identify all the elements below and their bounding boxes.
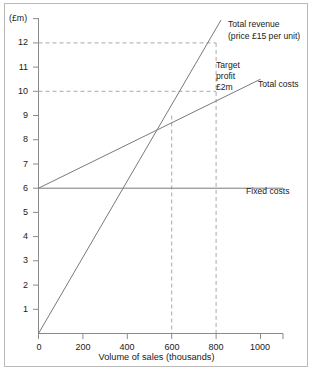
- x-axis-ticks: [39, 334, 284, 340]
- ytick-label-10: 10: [4, 87, 28, 96]
- annotation-total-revenue: Total revenue (price £15 per unit): [228, 19, 300, 42]
- ytick-label-6: 6: [8, 184, 28, 193]
- x-axis-title: Volume of sales (thousands): [0, 352, 313, 362]
- break-even-chart-figure: 1 2 3 4 5 6 7 8 9 10 11 12 0 200 400 600…: [0, 0, 313, 373]
- xtick-label-400: 400: [112, 343, 142, 352]
- total-costs-line: [39, 79, 261, 188]
- ytick-label-8: 8: [8, 135, 28, 144]
- ytick-label-11: 11: [4, 63, 28, 72]
- ytick-label-7: 7: [8, 160, 28, 169]
- annotation-total-revenue-line1: Total revenue: [228, 19, 300, 31]
- ytick-label-9: 9: [8, 111, 28, 120]
- ytick-label-12: 12: [4, 38, 28, 47]
- xtick-label-200: 200: [68, 343, 98, 352]
- annotation-fixed-costs: Fixed costs: [246, 186, 289, 196]
- annotation-target-profit: Target profit £2m: [216, 60, 240, 94]
- annotation-target-profit-line3: £2m: [216, 82, 240, 93]
- annotation-target-profit-line1: Target: [216, 60, 240, 71]
- ytick-label-3: 3: [8, 256, 28, 265]
- total-revenue-line: [39, 20, 222, 334]
- y-axis-unit-label: (£m): [9, 13, 27, 23]
- xtick-label-0: 0: [24, 343, 54, 352]
- ytick-label-5: 5: [8, 208, 28, 217]
- ytick-label-4: 4: [8, 232, 28, 241]
- annotation-target-profit-line2: profit: [216, 71, 240, 82]
- annotation-total-revenue-line2: (price £15 per unit): [228, 31, 300, 43]
- xtick-label-800: 800: [201, 343, 231, 352]
- xtick-label-600: 600: [157, 343, 187, 352]
- ytick-label-2: 2: [8, 281, 28, 290]
- annotation-total-costs: Total costs: [258, 79, 299, 89]
- y-axis-ticks: [33, 19, 38, 310]
- xtick-label-1000: 1000: [243, 343, 277, 352]
- ytick-label-1: 1: [8, 305, 28, 314]
